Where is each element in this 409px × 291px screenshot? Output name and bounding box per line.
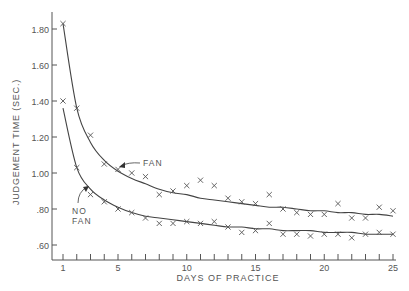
x-axis-label: DAYS OF PRACTICE xyxy=(177,273,280,283)
y-tick-label: .80 xyxy=(36,205,49,215)
x-marker-icon xyxy=(267,221,272,226)
x-marker-icon xyxy=(129,170,134,175)
x-marker-icon xyxy=(335,201,340,206)
x-marker-icon xyxy=(102,161,107,166)
x-marker-icon xyxy=(198,178,203,183)
y-ticks: .60.801.001.201.401.601.80 xyxy=(31,25,57,251)
x-marker-icon xyxy=(308,212,313,217)
y-tick-label: 1.60 xyxy=(31,61,49,71)
x-tick-label: 20 xyxy=(319,263,329,273)
x-marker-icon xyxy=(239,230,244,235)
y-tick-label: 1.40 xyxy=(31,97,49,107)
x-marker-icon xyxy=(294,232,299,237)
x-marker-icon xyxy=(225,196,230,201)
x-ticks: 1510152025 xyxy=(60,254,398,273)
x-marker-icon xyxy=(143,174,148,179)
x-tick-label: 25 xyxy=(388,263,398,273)
no-fan-fit-curve xyxy=(63,108,393,234)
x-marker-icon xyxy=(280,232,285,237)
x-marker-icon xyxy=(267,192,272,197)
x-tick-label: 5 xyxy=(115,263,120,273)
x-marker-icon xyxy=(390,208,395,213)
x-marker-icon xyxy=(212,183,217,188)
x-tick-label: 1 xyxy=(60,263,65,273)
x-marker-icon xyxy=(212,219,217,224)
y-tick-label: 1.20 xyxy=(31,133,49,143)
fan-data-points xyxy=(60,21,395,221)
chart: .60.801.001.201.401.601.80 1510152025 JU… xyxy=(0,0,409,291)
no-fan-data-points xyxy=(60,98,395,240)
fan-annotation: FAN xyxy=(119,158,163,168)
x-marker-icon xyxy=(294,210,299,215)
x-marker-icon xyxy=(349,235,354,240)
x-marker-icon xyxy=(170,221,175,226)
x-marker-icon xyxy=(349,215,354,220)
x-marker-icon xyxy=(322,212,327,217)
axes xyxy=(52,12,396,260)
x-tick-label: 10 xyxy=(182,263,192,273)
no-fan-label-line2: FAN xyxy=(72,216,92,226)
x-tick-label: 15 xyxy=(250,263,260,273)
y-axis-label: JUDGEMENT TIME (SEC.) xyxy=(11,79,21,205)
no-fan-annotation: NO FAN xyxy=(72,186,92,226)
fan-label: FAN xyxy=(143,158,163,168)
x-marker-icon xyxy=(308,233,313,238)
x-marker-icon xyxy=(363,215,368,220)
y-tick-label: 1.80 xyxy=(31,25,49,35)
x-marker-icon xyxy=(184,183,189,188)
y-tick-label: 1.00 xyxy=(31,169,49,179)
fan-fit-curve xyxy=(63,24,393,217)
x-marker-icon xyxy=(60,98,65,103)
x-marker-icon xyxy=(88,192,93,197)
no-fan-label-line1: NO xyxy=(72,206,87,216)
fan-arrowhead-icon xyxy=(119,162,125,168)
x-marker-icon xyxy=(377,205,382,210)
y-tick-label: .60 xyxy=(36,241,49,251)
x-marker-icon xyxy=(157,192,162,197)
x-marker-icon xyxy=(88,133,93,138)
x-marker-icon xyxy=(157,221,162,226)
